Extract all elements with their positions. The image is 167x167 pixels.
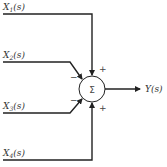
label-x1: X1(s) [2, 2, 25, 13]
label-x3: X3(s) [2, 101, 25, 112]
block-diagram: Σ X1(s) X2(s) X3(s) X4(s) Y(s) + − − + [0, 0, 167, 167]
sign-x1: + [99, 64, 107, 74]
label-x2: X2(s) [2, 50, 25, 61]
input-line-x1 [3, 14, 92, 75]
label-output: Y(s) [145, 84, 163, 94]
sign-x3: − [70, 95, 78, 105]
diagram-canvas: Σ X1(s) X2(s) X3(s) X4(s) Y(s) + − − + [0, 0, 167, 167]
sigma-symbol: Σ [89, 85, 95, 95]
label-x4: X4(s) [2, 148, 25, 159]
sign-x4: + [99, 103, 107, 113]
sign-x2: − [70, 72, 78, 82]
